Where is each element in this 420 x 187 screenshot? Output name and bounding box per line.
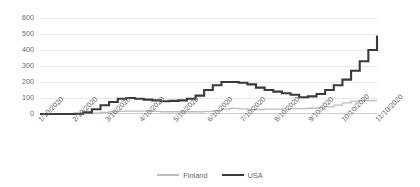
y-tick-label: 300 <box>22 62 34 70</box>
y-tick-label: 500 <box>22 30 34 38</box>
usa-line-swatch-icon <box>222 174 244 177</box>
finland-line-swatch-icon <box>157 174 179 176</box>
chart-legend: Finland USA <box>0 168 420 182</box>
legend-label: USA <box>248 171 263 180</box>
legend-item-finland: Finland <box>157 171 207 180</box>
y-tick-label: 100 <box>22 94 34 102</box>
y-tick-label: 600 <box>22 14 34 22</box>
y-tick-label: 200 <box>22 78 34 86</box>
legend-item-usa: USA <box>222 171 263 180</box>
legend-label: Finland <box>183 171 207 180</box>
line-chart: 600 500 400 300 200 100 0 1/10/2020 2/10… <box>0 0 420 187</box>
y-tick-label: 400 <box>22 46 34 54</box>
x-tick-label: 11/10/2020 <box>374 93 405 124</box>
y-axis-labels: 600 500 400 300 200 100 0 <box>0 0 40 130</box>
x-axis-labels: 1/10/2020 2/10/2020 3/10/2020 4/10/2020 … <box>0 116 420 164</box>
